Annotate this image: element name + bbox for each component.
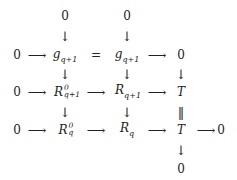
arrow-right-icon: ⟶ (28, 86, 47, 99)
node-R-q1: Rq+1 (115, 84, 141, 99)
symbol-sub: q+1 (60, 55, 77, 64)
symbol-base: g (115, 47, 123, 61)
arrow-down-icon: ↓ (122, 30, 133, 43)
arrow-down-icon: ↓ (60, 68, 71, 81)
node-zero-top-left: 0 (61, 10, 69, 22)
symbol-sub: q (129, 129, 134, 138)
arrow-down-icon: ↓ (122, 68, 133, 81)
symbol-base: R (115, 83, 124, 97)
symbol-sub: q (69, 130, 74, 137)
equals-sign: = (91, 49, 101, 61)
symbol-scripts: 0q+1 (64, 85, 80, 99)
arrow-down-icon: ↓ (176, 68, 187, 81)
symbol-base: g (53, 47, 61, 61)
arrow-down-icon: ↓ (176, 144, 187, 157)
node-zero: 0 (217, 124, 225, 136)
arrow-down-icon: ↓ (60, 30, 71, 43)
symbol-base: R (59, 123, 68, 137)
arrow-right-icon: ⟶ (28, 124, 47, 137)
arrow-right-icon: ⟶ (148, 86, 167, 99)
symbol-sub: q+1 (64, 92, 80, 99)
symbol-base: R (120, 121, 129, 135)
node-zero-bottom: 0 (177, 163, 185, 175)
node-zero-top-right: 0 (123, 10, 131, 22)
node-zero: 0 (177, 49, 185, 61)
symbol-sub: q+1 (124, 91, 141, 100)
symbol-sub: q+1 (122, 55, 139, 64)
arrow-right-icon: ⟶ (87, 124, 106, 137)
node-T: T (177, 124, 185, 136)
arrow-down-icon: ↓ (60, 106, 71, 119)
node-R0-q1: R0q+1 (54, 85, 80, 99)
node-zero: 0 (13, 124, 21, 136)
arrow-down-icon: ↓ (122, 106, 133, 119)
symbol-base: R (54, 85, 63, 99)
double-line-equal-icon: ‖ (178, 106, 185, 119)
arrow-right-icon: ⟶ (87, 86, 106, 99)
symbol-scripts: 0q (69, 123, 74, 137)
node-R0-q: R0q (59, 123, 74, 137)
arrow-right-icon: ⟶ (148, 49, 167, 62)
node-zero: 0 (13, 86, 21, 98)
node-T: T (177, 86, 185, 98)
arrow-right-icon: ⟶ (148, 124, 167, 137)
node-g-q1-right: gq+1 (115, 48, 140, 63)
arrow-right-icon: ⟶ (197, 124, 216, 137)
node-g-q1-left: gq+1 (53, 48, 78, 63)
arrow-right-icon: ⟶ (28, 49, 47, 62)
node-R-q: Rq (120, 122, 134, 137)
node-zero: 0 (13, 49, 21, 61)
